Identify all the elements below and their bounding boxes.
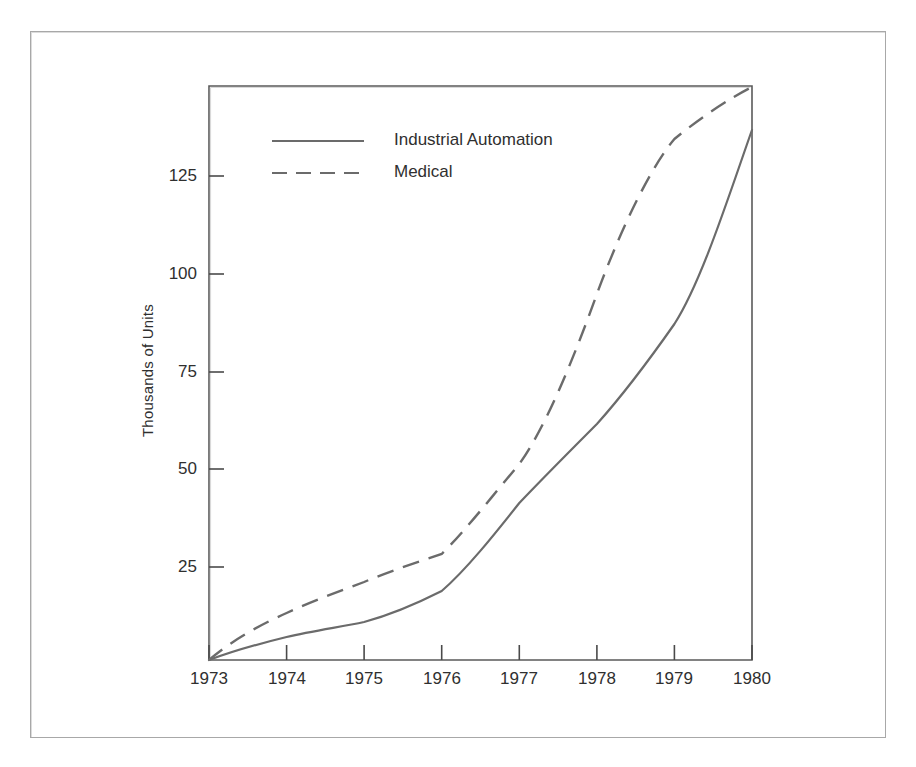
plot-canvas [0,0,916,767]
x-tick-label-1977: 1977 [500,669,538,689]
x-tick-label-1975: 1975 [345,669,383,689]
legend-entry-medical: Medical [272,158,602,190]
x-tick-label-1973: 1973 [190,669,228,689]
x-tick-label-1976: 1976 [423,669,461,689]
legend-label-medical: Medical [394,162,453,182]
y-tick-label-125: 125 [142,166,197,186]
x-axis-ticks [209,645,752,660]
legend-swatch-dashed-line [272,172,364,174]
x-tick-label-1974: 1974 [268,669,306,689]
y-tick-label-50: 50 [142,459,197,479]
x-tick-label-1979: 1979 [655,669,693,689]
legend-swatch-solid-line [272,140,364,142]
legend-entry-industrial-automation: Industrial Automation [272,126,602,158]
y-axis-title: Thousands of Units [139,304,156,437]
y-tick-label-100: 100 [142,264,197,284]
y-axis-ticks [209,176,224,567]
series-line-industrial-automation [209,130,752,660]
chart-figure: 125 100 75 50 25 Thousands of Units 1973… [0,0,916,767]
y-tick-label-25: 25 [142,557,197,577]
x-tick-label-1978: 1978 [578,669,616,689]
chart-legend: Industrial Automation Medical [272,126,602,190]
legend-label-industrial-automation: Industrial Automation [394,130,553,150]
x-tick-label-1980: 1980 [733,669,771,689]
